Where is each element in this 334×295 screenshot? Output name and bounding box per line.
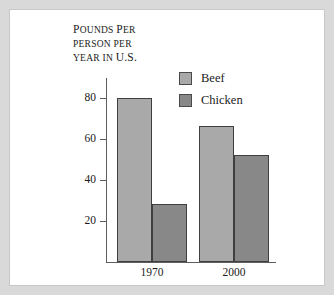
x-axis-label-2000: 2000 — [199, 266, 269, 278]
chart-title-line-1: POUNDS PER — [73, 23, 193, 38]
bar-1970-beef — [117, 98, 152, 262]
y-axis-tick: 20 — [100, 221, 106, 222]
bar-chart: POUNDS PER PERSON PER YEAR IN U.S. Beef … — [10, 10, 326, 287]
plot-area: 20406080 19702000 — [106, 78, 276, 263]
bar-2000-chicken — [234, 155, 269, 262]
y-axis-tick-label: 20 — [85, 214, 97, 226]
y-axis-tick-label: 80 — [85, 91, 97, 103]
y-axis-tick-label: 60 — [85, 132, 97, 144]
y-axis-tick: 60 — [100, 139, 106, 140]
x-axis-line — [106, 262, 276, 263]
x-axis-label-1970: 1970 — [117, 266, 187, 278]
chart-title-line-3: YEAR IN U.S. — [73, 51, 193, 66]
figure-frame: POUNDS PER PERSON PER YEAR IN U.S. Beef … — [9, 9, 325, 286]
y-axis-tick: 80 — [100, 98, 106, 99]
y-axis-tick: 40 — [100, 180, 106, 181]
y-axis-tick-label: 40 — [85, 173, 97, 185]
bar-2000-beef — [199, 126, 234, 262]
chart-title: POUNDS PER PERSON PER YEAR IN U.S. — [73, 23, 193, 66]
bar-1970-chicken — [152, 204, 187, 262]
y-axis-line — [106, 78, 107, 263]
chart-title-line-2: PERSON PER — [73, 38, 193, 52]
